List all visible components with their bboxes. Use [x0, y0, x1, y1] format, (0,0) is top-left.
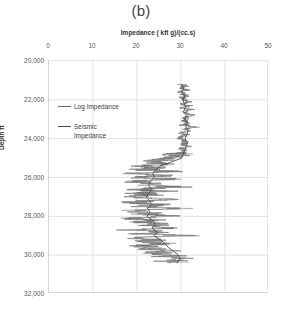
legend-item[interactable]: Seismic Impedance: [58, 122, 154, 140]
plot-area: [48, 60, 268, 293]
x-tick-label: 40: [220, 42, 227, 49]
y-tick-label: 24,000: [8, 134, 44, 141]
legend-label: Seismic Impedance: [74, 122, 108, 140]
x-axis-title: Impedance ( kft g)/(cc.s): [48, 29, 268, 36]
x-tick-label: 20: [132, 42, 139, 49]
legend-item[interactable]: Log Impedance: [58, 102, 154, 111]
legend-swatch-icon: [58, 126, 71, 127]
legend-label: Log Impedance: [74, 102, 119, 111]
y-tick-label: 32,000: [8, 290, 44, 297]
y-tick-label: 30,000: [8, 251, 44, 258]
x-tick-label: 50: [264, 42, 271, 49]
y-tick-label: 22,000: [8, 95, 44, 102]
y-axis-title: Depth ft: [0, 125, 5, 150]
x-tick-label: 10: [88, 42, 95, 49]
x-tick-label: 30: [176, 42, 183, 49]
legend-swatch-icon: [58, 106, 71, 107]
y-tick-label: 26,000: [8, 173, 44, 180]
x-tick-label: 0: [46, 42, 50, 49]
y-tick-label: 28,000: [8, 212, 44, 219]
page-title: (b): [0, 2, 282, 19]
data-series-layer: [49, 61, 269, 294]
y-tick-label: 20,000: [8, 57, 44, 64]
legend: Log ImpedanceSeismic Impedance: [58, 102, 154, 151]
figure-panel: (b) Impedance ( kft g)/(cc.s) Depth ft 0…: [0, 0, 282, 314]
